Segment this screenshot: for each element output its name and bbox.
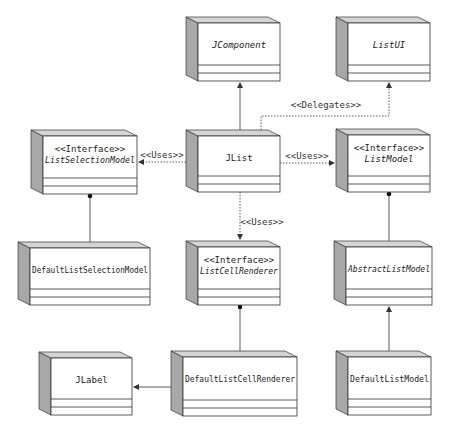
class-box-side-face	[39, 352, 51, 415]
class-box-defaultlistmodel: DefaultListModel	[336, 351, 431, 415]
class-box-side-face	[186, 17, 198, 81]
class-box-listui: ListUI	[336, 17, 430, 81]
class-box-top-face	[336, 17, 430, 23]
relation-label: <<Uses>>	[240, 217, 284, 227]
class-box-top-face	[186, 130, 280, 136]
class-name: ListUI	[373, 40, 406, 50]
classes-layer: JComponentListUI<<Interface>>ListSelecti…	[18, 17, 432, 416]
class-box-front-face	[346, 247, 432, 305]
relation-label: <<Delegates>>	[291, 100, 362, 110]
class-name: JLabel	[75, 375, 108, 385]
class-box-side-face	[336, 129, 348, 192]
class-box-front-face	[198, 23, 280, 81]
relation-label: <<Uses>>	[285, 151, 329, 161]
class-box-front-face	[348, 357, 431, 415]
class-box-jlabel: JLabel	[39, 352, 132, 415]
class-box-top-face	[18, 242, 150, 248]
class-box-defaultlistcellrenderer: DefaultListCellRenderer	[171, 351, 297, 416]
class-name: ListSelectionModel	[45, 155, 135, 165]
class-box-top-face	[336, 129, 430, 135]
class-box-abstractlistmodel: AbstractListModel	[334, 241, 432, 305]
class-box-side-face	[186, 130, 198, 192]
class-box-top-face	[186, 17, 280, 23]
class-box-top-face	[39, 352, 132, 358]
class-name: JComponent	[211, 40, 266, 50]
class-box-listselectionmodel: <<Interface>>ListSelectionModel	[31, 130, 137, 194]
class-name: ListCellRenderer	[200, 266, 279, 276]
class-box-side-face	[186, 241, 198, 305]
class-box-defaultlistselectionmodel: DefaultListSelectionModel	[18, 242, 150, 305]
class-stereotype: <<Interface>>	[204, 255, 275, 265]
class-box-side-face	[18, 242, 30, 305]
class-stereotype: <<Interface>>	[354, 143, 425, 153]
class-box-front-face	[51, 358, 132, 415]
class-box-side-face	[31, 130, 43, 194]
class-box-listmodel: <<Interface>>ListModel	[336, 129, 430, 192]
class-box-top-face	[31, 130, 137, 136]
relation-abstractlistmodel-to-listmodel	[387, 192, 392, 241]
relation-defaultlistcellrenderer-to-listcellrenderer	[238, 305, 243, 351]
class-name: DefaultListSelectionModel	[32, 265, 148, 275]
class-box-side-face	[336, 17, 348, 81]
class-box-side-face	[336, 351, 348, 415]
class-box-top-face	[171, 351, 297, 357]
class-box-jcomponent: JComponent	[186, 17, 280, 81]
class-name: DefaultListCellRenderer	[185, 374, 296, 384]
class-box-front-face	[30, 248, 150, 305]
class-box-side-face	[171, 351, 183, 416]
relation-label: <<Uses>>	[140, 150, 184, 160]
class-name: ListModel	[365, 154, 414, 164]
relation-defaultlistselectionmodel-to-listselectionmodel	[88, 194, 93, 242]
class-box-front-face	[183, 357, 297, 416]
class-box-side-face	[334, 241, 346, 305]
class-box-front-face	[348, 23, 430, 81]
class-box-top-face	[334, 241, 432, 247]
class-name: DefaultListModel	[350, 374, 429, 384]
uml-class-diagram: JComponentListUI<<Interface>>ListSelecti…	[0, 0, 451, 433]
class-name: AbstractListModel	[347, 264, 430, 274]
class-box-listcellrenderer: <<Interface>>ListCellRenderer	[186, 241, 280, 305]
class-box-top-face	[336, 351, 431, 357]
class-box-top-face	[186, 241, 280, 247]
class-stereotype: <<Interface>>	[55, 144, 126, 154]
relations-layer	[88, 83, 392, 387]
class-name: JList	[225, 153, 252, 163]
class-box-jlist: JList	[186, 130, 280, 192]
